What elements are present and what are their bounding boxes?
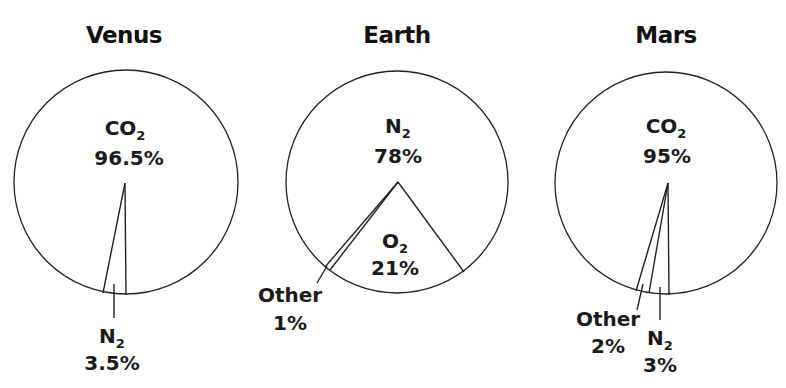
venus-title: Venus [86,22,162,48]
venus-pie-chart: Venus CO2 96.5% N2 3.5% [14,22,238,375]
mars-co2-label: CO2 [646,114,687,141]
earth-n2-percent: 78% [374,144,422,168]
earth-other-leader-line [317,266,327,283]
mars-other-percent: 2% [591,334,625,358]
earth-other-label: Other [258,283,322,307]
venus-n2-percent: 3.5% [84,351,139,375]
earth-pie-chart: Earth N2 78% O2 21% Other 1% [258,22,508,335]
earth-other-percent: 1% [273,311,307,335]
mars-n2-percent: 3% [643,353,677,377]
venus-n2-wedge-edge-right [125,183,126,295]
earth-other-wedge-edge [325,182,398,267]
mars-pie-circle [555,72,777,294]
venus-co2-percent: 96.5% [94,146,163,170]
mars-n2-wedge-edge-right [668,183,669,295]
mars-title: Mars [635,22,696,48]
venus-n2-label: N2 [99,324,125,351]
earth-o2-percent: 21% [371,256,419,280]
mars-co2-percent: 95% [643,144,691,168]
earth-title: Earth [363,22,430,48]
venus-n2-wedge-edge-left [103,183,125,293]
mars-n2-label: N2 [647,326,673,353]
venus-co2-label: CO2 [105,116,146,143]
earth-n2-label: N2 [385,114,411,141]
atmosphere-pie-charts: Venus CO2 96.5% N2 3.5% Earth N2 78% O2 … [0,0,786,388]
earth-o2-label: O2 [382,229,408,256]
mars-other-label: Other [576,307,640,331]
mars-pie-chart: Mars CO2 95% Other 2% N2 3% [555,22,777,377]
